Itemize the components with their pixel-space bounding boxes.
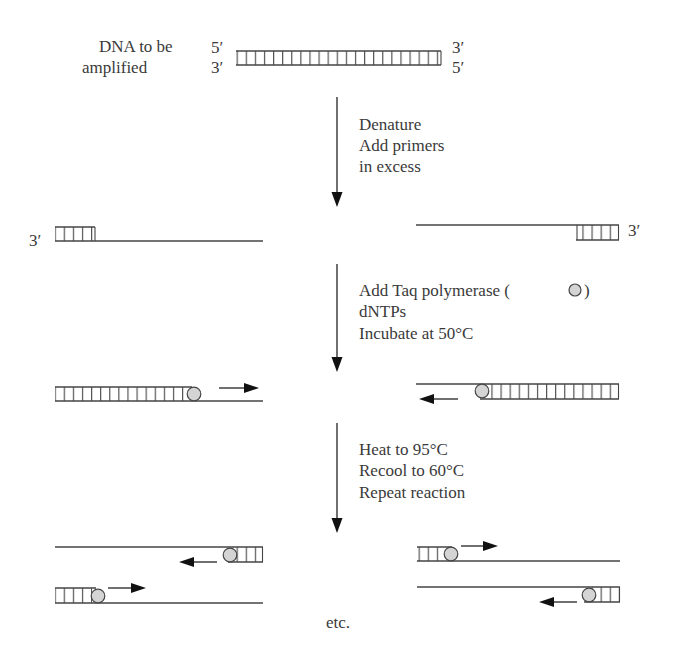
three-prime-label-top-right: 3′ [452,38,464,57]
polymerase-icon [223,548,237,562]
starting-dna: DNA to be amplified 5′ 3′ 3′ 5′ [82,37,464,77]
left-extension [55,383,263,401]
right-strand-with-primer: 3′ [416,221,640,240]
down-arrow-icon [332,97,343,207]
down-arrow-icon [332,264,343,372]
polymerase-icon [187,387,201,401]
extension-arrow-right-icon [108,583,146,593]
extension-arrow-left-icon [539,597,577,607]
extension-arrow-left-icon [179,557,217,567]
double-strand-dna [236,51,442,65]
extension-arrow-right-icon [461,541,498,551]
step-3-line-2: Recool to 60°C [359,461,464,480]
step-1-instructions: Denature Add primers in excess [359,115,444,176]
step-3-line-1: Heat to 95°C [359,440,448,459]
extension-arrow-right-icon [219,383,259,393]
step-2-line-2: dNTPs [359,302,406,321]
step-2-line-1-text: Add Taq polymerase ( [359,281,510,300]
dna-label-line2: amplified [82,58,148,77]
step-3-line-3: Repeat reaction [359,483,466,502]
extension-arrow-left-icon [419,394,458,404]
dna-label-line1: DNA to be [99,37,173,56]
down-arrow-icon [332,423,343,533]
step-2-line-1: Add Taq polymerase ( [359,281,510,300]
polymerase-icon [444,547,458,561]
cycle-right-bottom [417,587,620,607]
step-2-line-3: Incubate at 50°C [359,324,473,343]
cycle-left-bottom [55,583,263,603]
step-1-line-2: Add primers [359,136,444,155]
step-1-line-3: in excess [359,157,421,176]
pcr-diagram: DNA to be amplified 5′ 3′ 3′ 5′ Denature… [0,0,681,658]
step-2-instructions: Add Taq polymerase ( ) dNTPs Incubate at… [359,281,590,343]
three-prime-label-bottom-left: 3′ [211,58,223,77]
polymerase-legend-icon [569,284,581,296]
step-2-line-1-close: ) [584,281,590,300]
left-strand-with-primer: 3′ [29,227,263,250]
step-3-instructions: Heat to 95°C Recool to 60°C Repeat react… [359,440,466,502]
polymerase-icon [582,588,596,602]
five-prime-label-bottom-right: 5′ [452,58,464,77]
right-extension [416,384,619,404]
polymerase-icon [91,589,105,603]
cycle-right-top [417,541,620,561]
cycle-left-top [55,547,263,567]
five-prime-label-top-left: 5′ [211,38,223,57]
three-prime-label-right: 3′ [628,221,640,240]
polymerase-icon [475,384,489,398]
step-1-line-1: Denature [359,115,421,134]
etc-label: etc. [326,613,350,632]
three-prime-label-left: 3′ [29,231,41,250]
